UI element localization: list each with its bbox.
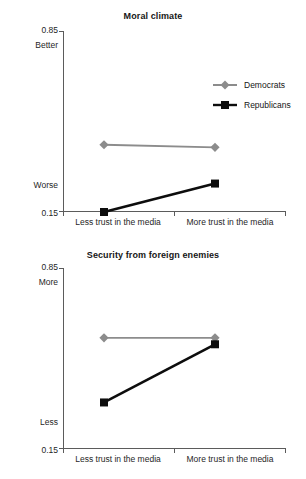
figure-container: Moral climate 0.85 Better Worse 0.15 Les… [0,0,306,479]
chart-title: Security from foreign enemies [0,250,306,260]
y-axis-min-label: 0.15 [41,208,58,218]
y-axis-max-label: 0.85 [41,25,58,35]
y-axis-high-anchor-label: Better [35,40,58,50]
series-layer-moral-climate [63,31,286,212]
plot-area-security: 0.85 More Less 0.15 Less trust in the me… [63,268,286,449]
democrats-line-marker-icon [212,79,238,91]
y-axis-max-label: 0.85 [41,262,58,272]
plot-area-moral-climate: 0.85 Better Worse 0.15 Less trust in the… [63,31,286,212]
series-democrats [99,140,219,152]
series-republicans [100,180,219,216]
republicans-line-marker-icon [212,99,238,111]
y-axis-low-anchor-label: Less [40,417,58,427]
legend-label-democrats: Democrats [244,81,285,90]
series-democrats [99,333,219,342]
legend-moral-climate: Democrats Republicans [212,78,291,118]
x-axis-label-right: More trust in the media [168,454,292,464]
chart-panel-moral-climate: Moral climate 0.85 Better Worse 0.15 Les… [0,0,306,239]
chart-panel-security-foreign-enemies: Security from foreign enemies 0.85 More … [0,240,306,479]
legend-label-republicans: Republicans [244,101,291,110]
legend-item-democrats: Democrats [212,78,291,92]
x-axis-label-right: More trust in the media [168,217,292,227]
x-axis-label-left: Less trust in the media [57,454,179,464]
x-axis-label-left: Less trust in the media [57,217,179,227]
chart-title: Moral climate [0,11,306,21]
y-axis-min-label: 0.15 [41,445,58,455]
series-republicans [100,340,219,406]
series-layer-security [63,268,286,449]
y-axis-low-anchor-label: Worse [34,180,58,190]
legend-item-republicans: Republicans [212,98,291,112]
y-axis-high-anchor-label: More [39,277,58,287]
